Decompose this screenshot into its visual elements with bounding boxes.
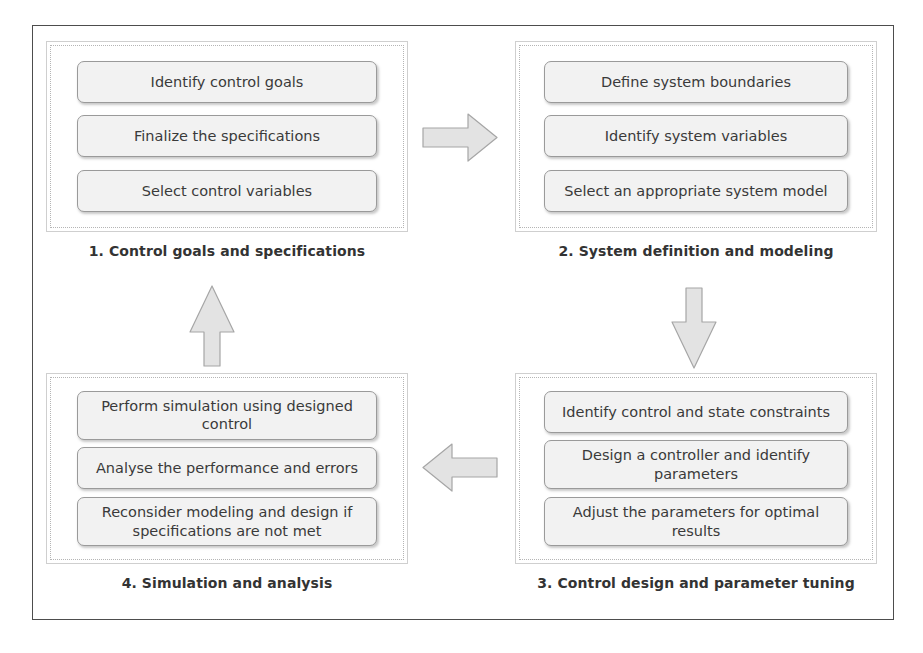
group-panel-inner: Identify control and state constraints D… [519, 377, 873, 560]
step-box[interactable]: Adjust the parameters for optimal result… [544, 497, 848, 546]
arrow-down-icon [668, 286, 720, 370]
step-box[interactable]: Identify control and state constraints [544, 391, 848, 433]
diagram-canvas: Identify control goals Finalize the spec… [0, 0, 923, 653]
group-panel-system-definition: Define system boundaries Identify system… [515, 41, 877, 232]
arrow-right-icon [421, 110, 499, 165]
group-panel-simulation-analysis: Perform simulation using designed contro… [46, 373, 408, 564]
step-box[interactable]: Define system boundaries [544, 61, 848, 103]
arrow-left-icon [421, 440, 499, 495]
group-caption-3: 3. Control design and parameter tuning [515, 575, 877, 591]
group-caption-4: 4. Simulation and analysis [46, 575, 408, 591]
group-caption-1: 1. Control goals and specifications [46, 243, 408, 259]
step-box[interactable]: Select control variables [77, 170, 377, 212]
arrow-up-icon [186, 284, 238, 368]
group-panel-inner: Define system boundaries Identify system… [519, 45, 873, 228]
group-panel-control-goals: Identify control goals Finalize the spec… [46, 41, 408, 232]
step-box[interactable]: Reconsider modeling and design if specif… [77, 497, 377, 546]
step-box[interactable]: Analyse the performance and errors [77, 447, 377, 489]
group-panel-control-design: Identify control and state constraints D… [515, 373, 877, 564]
group-caption-2: 2. System definition and modeling [515, 243, 877, 259]
step-box[interactable]: Select an appropriate system model [544, 170, 848, 212]
group-panel-inner: Identify control goals Finalize the spec… [50, 45, 404, 228]
step-box[interactable]: Perform simulation using designed contro… [77, 391, 377, 440]
step-box[interactable]: Finalize the specifications [77, 115, 377, 157]
step-box[interactable]: Design a controller and identify paramet… [544, 440, 848, 489]
step-box[interactable]: Identify control goals [77, 61, 377, 103]
step-box[interactable]: Identify system variables [544, 115, 848, 157]
group-panel-inner: Perform simulation using designed contro… [50, 377, 404, 560]
